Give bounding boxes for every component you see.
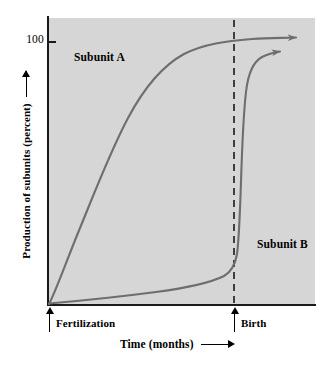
x-axis-line — [47, 304, 316, 306]
x-axis-title: Time (months) — [120, 338, 233, 350]
x-axis-title-text: Time (months) — [120, 338, 194, 350]
event-marker-fertilization: Fertilization — [45, 308, 115, 332]
y-axis-tick-100 — [49, 41, 56, 43]
chart-figure: 100 Subunit A Subunit B Fertilization — [0, 0, 336, 369]
series-label-subunit-a: Subunit A — [74, 51, 125, 63]
series-label-subunit-b: Subunit B — [257, 238, 308, 250]
y-axis-tick-label-100: 100 — [10, 33, 44, 45]
up-arrow-icon — [45, 308, 54, 332]
y-axis-title: Production of subunits (percent) — [16, 45, 36, 285]
y-axis-line — [47, 16, 49, 306]
event-marker-birth-label: Birth — [241, 317, 267, 329]
right-arrow-icon — [201, 340, 233, 348]
up-arrow-icon — [230, 308, 239, 332]
event-marker-birth: Birth — [230, 308, 267, 332]
up-arrow-icon — [22, 71, 30, 97]
y-axis-title-text: Production of subunits (percent) — [20, 103, 32, 258]
event-marker-fertilization-label: Fertilization — [56, 317, 115, 329]
